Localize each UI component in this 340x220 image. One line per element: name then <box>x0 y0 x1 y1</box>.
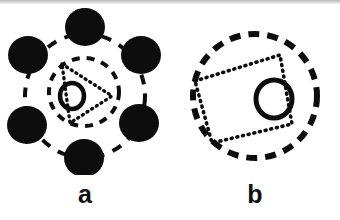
panel-b-drawing <box>170 0 340 175</box>
disk-upper-left <box>8 36 48 74</box>
disk-lower-left <box>7 106 47 144</box>
disk-upper-right <box>121 36 161 74</box>
dotted-rounded-triangle <box>62 64 112 123</box>
open-circle <box>60 83 84 109</box>
disk-lower-right <box>119 104 159 142</box>
dotted-tilted-rectangle <box>195 55 292 143</box>
panel-b-label: b <box>170 179 340 209</box>
panel-a-drawing <box>0 0 170 175</box>
figure-canvas: a b <box>0 0 340 220</box>
disk-bottom <box>64 139 104 175</box>
disk-top <box>65 8 105 46</box>
panel-b: b <box>170 0 340 220</box>
panel-a-label: a <box>0 179 170 209</box>
panel-a: a <box>0 0 170 220</box>
